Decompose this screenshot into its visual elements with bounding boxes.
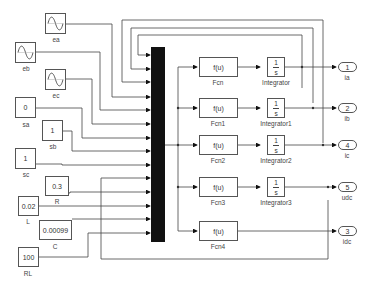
- sine-source-ea[interactable]: [45, 13, 66, 34]
- outport-udc[interactable]: 5: [338, 182, 357, 192]
- integrator2-label: Integrator2: [260, 157, 291, 164]
- outport-udc-label: udc: [342, 194, 352, 201]
- integrator3-block[interactable]: 1s: [267, 177, 285, 197]
- constant-RL-label: RL: [24, 270, 32, 277]
- fcn3-label: Fcn3: [211, 199, 225, 206]
- sine-wave-icon: [47, 71, 64, 88]
- integrator-block[interactable]: 1s: [267, 57, 285, 77]
- constant-C-label: C: [53, 243, 58, 250]
- constant-sa-label: sa: [23, 121, 30, 128]
- outport-ib[interactable]: 2: [338, 103, 357, 113]
- fcn2-label: Fcn2: [211, 157, 225, 164]
- integrator-label: Integrator: [262, 79, 290, 86]
- outport-ia[interactable]: 1: [338, 62, 357, 72]
- fcn4-block[interactable]: f(u): [199, 221, 238, 241]
- integrator1-block[interactable]: 1s: [267, 98, 285, 118]
- constant-sc-label: sc: [23, 171, 30, 178]
- fcn1-label: Fcn1: [211, 120, 225, 127]
- fcn1-block[interactable]: f(u): [199, 98, 238, 118]
- constant-sb[interactable]: 1: [42, 120, 63, 141]
- constant-sc[interactable]: 1: [15, 148, 36, 169]
- constant-L-label: L: [26, 218, 30, 225]
- integrator2-block[interactable]: 1s: [267, 135, 285, 155]
- constant-sa[interactable]: 0: [15, 97, 36, 118]
- sine-source-ea-label: ea: [52, 36, 59, 43]
- constant-sb-label: sb: [50, 143, 57, 150]
- integrator3-label: Integrator3: [260, 199, 291, 206]
- fcn3-block[interactable]: f(u): [199, 177, 238, 197]
- outport-ia-label: ia: [344, 74, 349, 81]
- fcn4-label: Fcn4: [211, 243, 225, 250]
- sine-source-eb-label: eb: [22, 65, 29, 72]
- sine-source-eb[interactable]: [15, 42, 36, 63]
- sine-source-ec[interactable]: [45, 69, 66, 90]
- outport-idc-label: idc: [343, 238, 351, 245]
- mux-block[interactable]: [151, 47, 165, 242]
- outport-ib-label: ib: [344, 115, 349, 122]
- sine-wave-icon: [17, 44, 34, 61]
- outport-idc[interactable]: 3: [338, 226, 357, 236]
- constant-R[interactable]: 0.3: [45, 176, 69, 196]
- constant-L[interactable]: 0.02: [18, 196, 39, 216]
- integrator1-label: Integrator1: [260, 120, 291, 127]
- sine-source-ec-label: ec: [53, 92, 60, 99]
- constant-R-label: R: [55, 198, 60, 205]
- sine-wave-icon: [47, 15, 64, 32]
- outport-ic-label: ic: [345, 152, 350, 159]
- fcn-label: Fcn: [213, 79, 224, 86]
- constant-RL[interactable]: 100: [18, 247, 39, 267]
- fcn2-block[interactable]: f(u): [199, 135, 238, 155]
- fcn-block[interactable]: f(u): [199, 57, 238, 77]
- outport-ic[interactable]: 4: [338, 140, 357, 150]
- constant-C[interactable]: 0.00099: [39, 220, 72, 240]
